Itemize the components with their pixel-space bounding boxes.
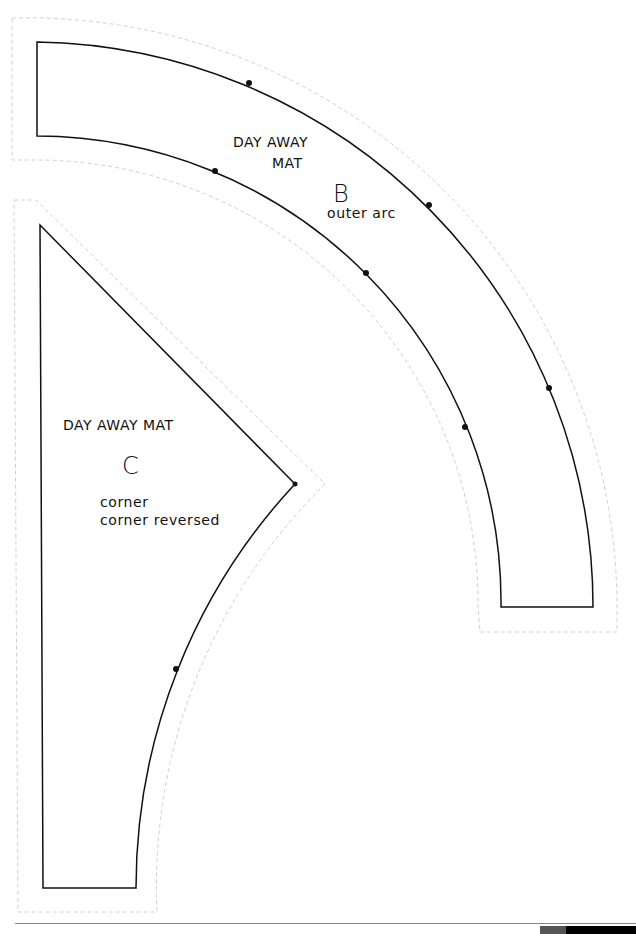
piece-b-notches	[212, 80, 552, 430]
piece-c-outline	[40, 225, 295, 888]
piece-b-title-line2: MAT	[272, 155, 303, 171]
piece-b-title-line1: DAY AWAY	[233, 134, 308, 150]
piece-b-letter: B	[333, 180, 349, 208]
piece-c-description-line1: corner	[100, 494, 149, 510]
footer-divider	[15, 923, 636, 924]
piece-c-description-line2: corner reversed	[100, 512, 220, 528]
piece-c-seam-allowance	[14, 200, 325, 912]
piece-c-letter: C	[122, 452, 139, 480]
pattern-sheet: DAY AWAY MAT B outer arc DAY AWAY MAT C …	[0, 0, 636, 934]
piece-c-notches	[173, 482, 298, 673]
footer-page-mark	[540, 926, 636, 934]
pattern-drawing	[0, 0, 636, 934]
piece-b-description: outer arc	[327, 205, 396, 221]
piece-c-title: DAY AWAY MAT	[63, 417, 174, 433]
piece-b-seam-allowance	[12, 18, 617, 632]
